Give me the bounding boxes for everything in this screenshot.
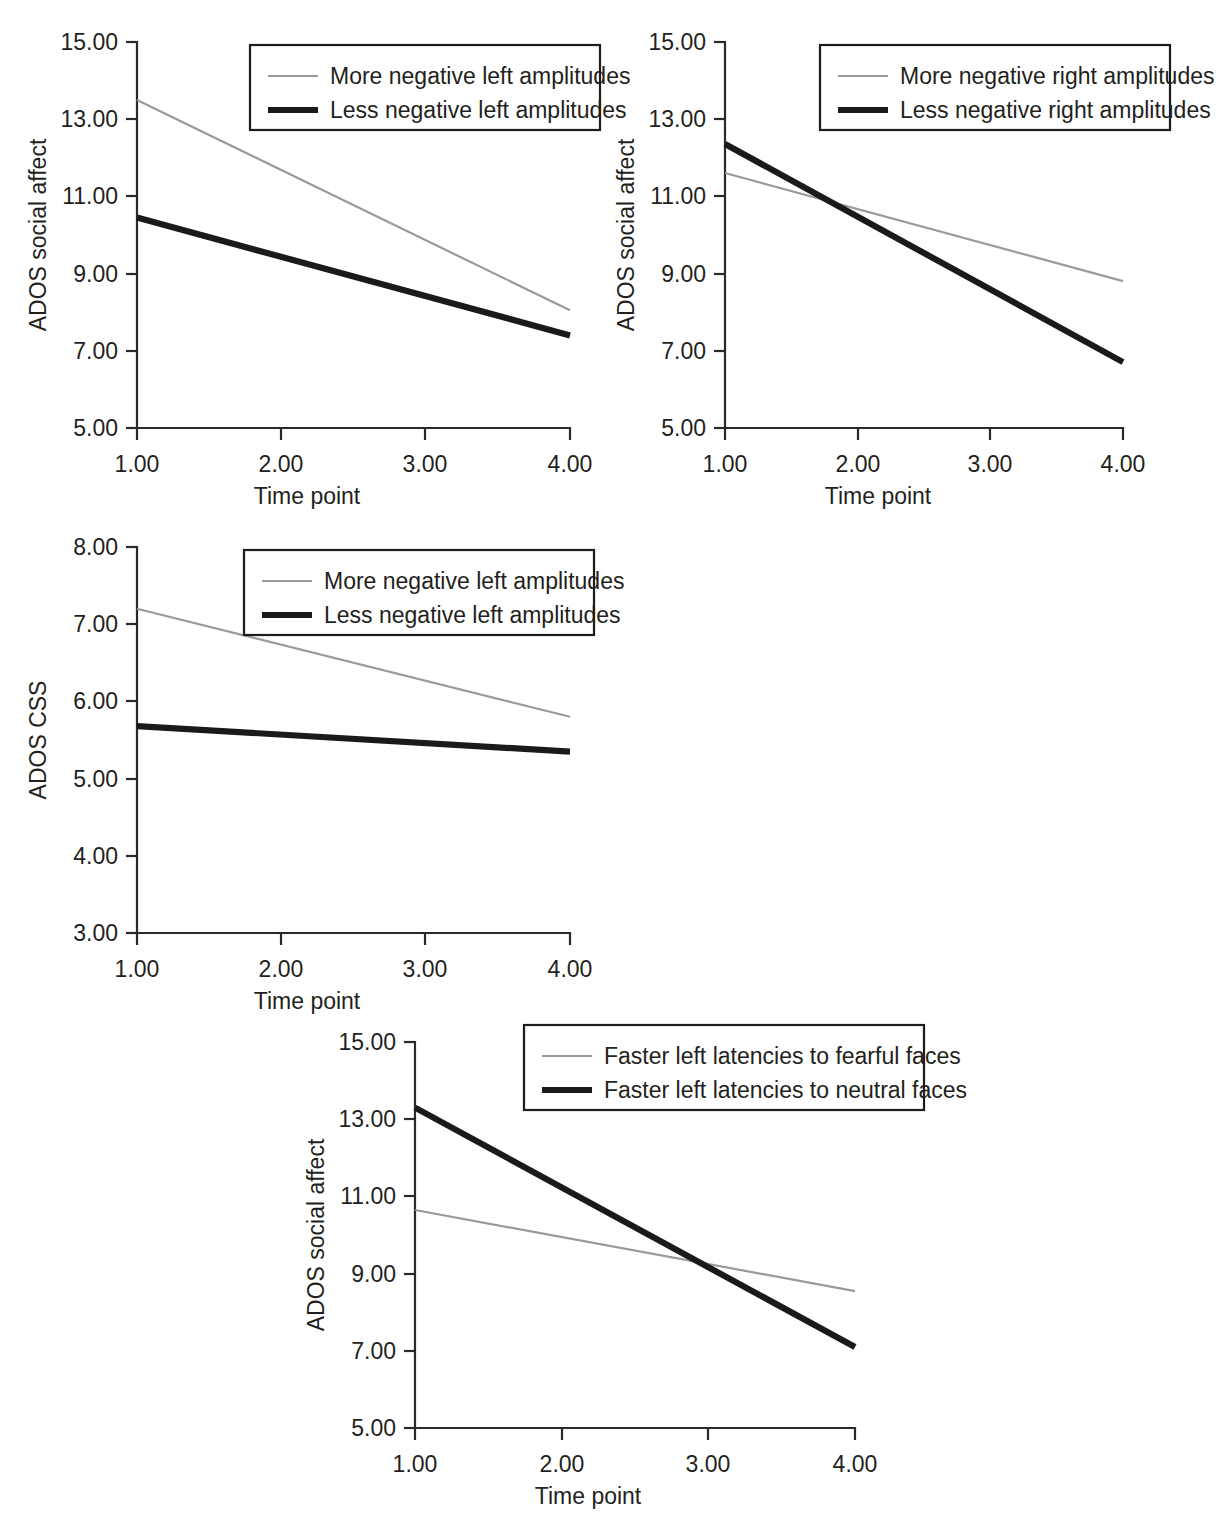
y-tick-label: 15.00 [60,29,118,55]
x-axis-title: Time point [535,1483,642,1509]
x-tick-label: 1.00 [703,451,748,477]
panel-2-svg: 15.00 13.00 11.00 9.00 7.00 5.00 1.00 2.… [588,0,1216,510]
x-tick-label: 4.00 [1101,451,1146,477]
series-line-less-negative-left [137,726,570,752]
figure-canvas: 15.00 13.00 11.00 9.00 7.00 5.00 1.00 2.… [0,0,1216,1519]
y-tick-label: 5.00 [661,415,706,441]
y-tick-label: 15.00 [338,1029,396,1055]
legend-label: Less negative left amplitudes [330,97,627,123]
y-tick-label: 11.00 [340,1183,396,1209]
legend-label: Less negative left amplitudes [324,602,621,628]
x-tick-label: 2.00 [259,956,304,982]
y-axis-title: ADOS social affect [25,138,51,331]
y-tick-label: 6.00 [73,688,118,714]
x-tick-label: 3.00 [403,451,448,477]
y-tick-label: 15.00 [648,29,706,55]
y-tick-label: 5.00 [73,766,118,792]
x-tick-label: 1.00 [115,956,160,982]
chart-panel-3: 8.00 7.00 6.00 5.00 4.00 3.00 1.00 2.00 … [0,505,620,1015]
y-tick-label: 5.00 [351,1415,396,1441]
x-tick-label: 3.00 [686,1451,731,1477]
legend-label: More negative left amplitudes [324,568,624,594]
y-tick-label: 9.00 [351,1261,396,1287]
panel-1-svg: 15.00 13.00 11.00 9.00 7.00 5.00 1.00 2.… [0,0,620,510]
panel-4-svg: 15.00 13.00 11.00 9.00 7.00 5.00 1.00 2.… [278,1000,938,1510]
y-tick-label: 11.00 [650,183,706,209]
x-tick-label: 3.00 [968,451,1013,477]
series-line-neutral-faces [415,1108,855,1347]
y-tick-label: 7.00 [661,338,706,364]
y-tick-label: 11.00 [62,183,118,209]
y-axis-title: ADOS social affect [303,1138,329,1331]
x-axis-title: Time point [825,483,932,509]
y-tick-label: 13.00 [648,106,706,132]
y-tick-label: 5.00 [73,415,118,441]
x-tick-label: 4.00 [548,956,593,982]
y-tick-label: 13.00 [60,106,118,132]
legend-label: More negative left amplitudes [330,63,630,89]
y-tick-label: 13.00 [338,1106,396,1132]
y-axis-title: ADOS social affect [613,138,639,331]
y-tick-label: 9.00 [73,261,118,287]
x-tick-label: 4.00 [833,1451,878,1477]
legend-label: Faster left latencies to neutral faces [604,1077,967,1103]
series-line-less-negative-left [137,218,570,336]
y-tick-label: 8.00 [73,534,118,560]
x-tick-label: 3.00 [403,956,448,982]
x-tick-label: 1.00 [393,1451,438,1477]
chart-panel-1: 15.00 13.00 11.00 9.00 7.00 5.00 1.00 2.… [0,0,620,510]
series-line-less-negative-right [725,144,1123,362]
x-tick-label: 4.00 [548,451,593,477]
x-tick-label: 2.00 [259,451,304,477]
series-line-more-negative-right [725,173,1123,281]
chart-panel-4: 15.00 13.00 11.00 9.00 7.00 5.00 1.00 2.… [278,1000,938,1510]
series-line-fearful-faces [415,1210,855,1291]
y-tick-label: 9.00 [661,261,706,287]
y-tick-label: 3.00 [73,920,118,946]
y-tick-label: 7.00 [73,338,118,364]
y-tick-label: 4.00 [73,843,118,869]
x-tick-label: 2.00 [836,451,881,477]
panel-3-svg: 8.00 7.00 6.00 5.00 4.00 3.00 1.00 2.00 … [0,505,620,1015]
chart-panel-2: 15.00 13.00 11.00 9.00 7.00 5.00 1.00 2.… [588,0,1216,510]
scan-artifact [0,1505,420,1519]
legend-label: More negative right amplitudes [900,63,1215,89]
x-tick-label: 2.00 [540,1451,585,1477]
legend-label: Faster left latencies to fearful faces [604,1043,961,1069]
y-tick-label: 7.00 [351,1338,396,1364]
x-tick-label: 1.00 [115,451,160,477]
y-tick-label: 7.00 [73,611,118,637]
legend-label: Less negative right amplitudes [900,97,1211,123]
y-axis-title: ADOS CSS [25,681,51,800]
